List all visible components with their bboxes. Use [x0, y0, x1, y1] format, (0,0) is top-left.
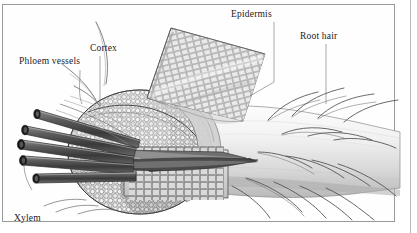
leader-phloem — [80, 70, 83, 104]
label-xylem-vessels: Xylem vessels — [14, 192, 42, 233]
label-cortex: Cortex — [90, 43, 117, 53]
label-xylem-vessels-line1: Xylem — [14, 213, 42, 223]
leader-xylem — [24, 164, 32, 190]
label-epidermis: Epidermis — [231, 9, 272, 19]
label-root-hair: Root hair — [300, 31, 337, 41]
root-diagram-illustration — [0, 0, 417, 233]
figure-stage: Epidermis Root hair Cortex Phloem vessel… — [0, 0, 417, 233]
label-phloem-vessels: Phloem vessels — [19, 56, 80, 66]
